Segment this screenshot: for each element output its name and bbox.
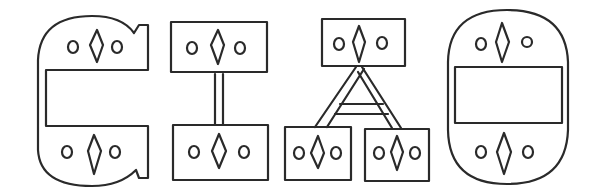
diamond-icon (212, 134, 226, 168)
circle-icon (294, 147, 304, 159)
circle-icon (110, 146, 120, 158)
circle-icon (331, 147, 341, 159)
diamond-icon (496, 23, 509, 62)
c-outline (38, 16, 148, 186)
diamond-icon (497, 133, 511, 174)
diamond-icon (391, 136, 403, 170)
circle-icon (476, 38, 486, 50)
circle-icon (410, 147, 420, 159)
diamond-icon (90, 30, 103, 62)
central-rectangle (455, 67, 562, 123)
left-leg-inner (327, 69, 364, 127)
illustration (0, 0, 595, 196)
circle-icon (62, 146, 72, 158)
circle-icon (374, 147, 384, 159)
motif-bottom (62, 135, 120, 174)
motif-bottom (476, 133, 533, 174)
diamond-icon (88, 135, 101, 174)
right-leg-inner (358, 72, 392, 128)
motif-top (68, 30, 122, 62)
circle-icon (68, 41, 78, 53)
right-leg-outer (362, 67, 401, 128)
diamond-icon (353, 26, 365, 62)
circle-icon (377, 37, 387, 49)
two-panels-joined-by-stem (171, 22, 268, 180)
circle-icon (334, 38, 344, 50)
motif-top (476, 23, 532, 62)
circle-icon (523, 146, 533, 158)
left-leg-outer (315, 67, 356, 127)
circle-icon (112, 41, 122, 53)
top-panel (171, 22, 267, 72)
circle-icon (239, 146, 249, 158)
circle-icon (189, 146, 199, 158)
diamond-icon (211, 30, 224, 64)
circle-icon (187, 42, 197, 54)
three-panels-joined-by-ladder-triangle (285, 19, 429, 181)
circle-icon (522, 37, 532, 47)
oval-with-central-rectangle (448, 10, 568, 184)
diamond-icon (311, 136, 324, 168)
circle-icon (235, 42, 245, 54)
c-shaped-glyph (38, 16, 148, 186)
bottom-panel (173, 125, 268, 180)
circle-icon (476, 146, 486, 158)
